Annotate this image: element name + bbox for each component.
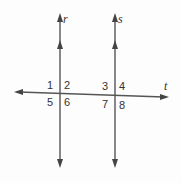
- parallel-marker-icon: [112, 40, 118, 49]
- arrowhead-right-icon: [160, 94, 169, 100]
- angle-4: 4: [119, 80, 125, 92]
- angle-2: 2: [64, 79, 70, 91]
- arrowhead-down-icon: [112, 159, 118, 168]
- arrowhead-down-icon: [57, 159, 63, 168]
- angle-1: 1: [47, 79, 53, 91]
- angle-6: 6: [64, 96, 70, 108]
- label-t: t: [164, 79, 168, 93]
- angle-8: 8: [119, 99, 125, 111]
- label-s: s: [118, 12, 123, 26]
- line-t: [14, 89, 169, 100]
- arrowhead-left-icon: [14, 89, 23, 95]
- line-s: [112, 13, 118, 168]
- parallel-marker-icon: [57, 40, 63, 49]
- line-r: [57, 13, 63, 168]
- parallel-lines-diagram: r s t 1 2 3 4 5 6 7 8: [0, 0, 181, 183]
- angle-7: 7: [102, 98, 108, 110]
- diagram-canvas: r s t 1 2 3 4 5 6 7 8: [0, 0, 181, 183]
- angle-5: 5: [47, 96, 53, 108]
- angle-3: 3: [102, 80, 108, 92]
- label-r: r: [63, 12, 68, 26]
